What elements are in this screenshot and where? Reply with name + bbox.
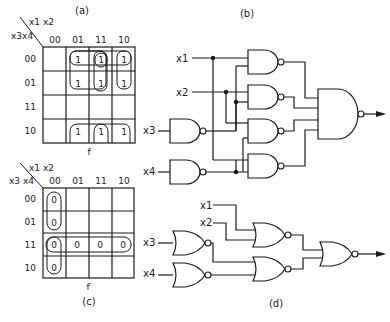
kmap-col-var: x1 x2 bbox=[29, 163, 54, 173]
kmap-cell: 1 bbox=[121, 79, 127, 89]
kmap-cell: 0 bbox=[97, 240, 103, 250]
panel-label-c: (c) bbox=[82, 296, 95, 307]
function-label-f: f bbox=[87, 147, 91, 157]
input-x1: x1 bbox=[176, 53, 188, 64]
kmap-cell: 1 bbox=[98, 127, 104, 137]
nor-gate bbox=[253, 257, 291, 281]
input-x2: x2 bbox=[176, 87, 188, 98]
kmap-cell: 1 bbox=[98, 79, 104, 89]
col-header: 10 bbox=[118, 35, 130, 45]
col-header: 00 bbox=[49, 35, 61, 45]
col-header: 11 bbox=[95, 35, 106, 45]
input-x3: x3 bbox=[143, 125, 155, 136]
kmap-col-var: x1 x2 bbox=[29, 17, 54, 27]
row-header: 11 bbox=[25, 102, 36, 112]
kmap-row-var: x3x4 bbox=[11, 31, 33, 41]
col-header: 10 bbox=[118, 176, 130, 186]
kmap-f: (a) x1 x2 x3x4 00 01 11 10 00 01 11 10 1… bbox=[11, 5, 135, 157]
kmap-cell: 0 bbox=[74, 240, 80, 250]
kmap-f-prime: x1 x2 x3 x4 00 01 11 10 00 01 11 10 0 0 … bbox=[9, 163, 134, 307]
col-header: 01 bbox=[72, 176, 83, 186]
kmap-cell: 1 bbox=[98, 55, 104, 65]
input-x4: x4 bbox=[143, 268, 155, 279]
output-arrow-icon bbox=[376, 251, 386, 257]
nand-gate bbox=[170, 119, 206, 143]
row-header: 01 bbox=[25, 217, 36, 227]
row-header: 11 bbox=[25, 240, 36, 250]
function-label-f-prime: f′ bbox=[86, 282, 91, 292]
nand-gate bbox=[248, 50, 284, 74]
logic-figure: (a) x1 x2 x3x4 00 01 11 10 00 01 11 10 1… bbox=[0, 0, 390, 322]
col-header: 11 bbox=[95, 176, 106, 186]
kmap-row-var: x3 x4 bbox=[9, 176, 34, 186]
panel-label-d: (d) bbox=[269, 298, 283, 309]
output-nand-gate bbox=[318, 89, 358, 139]
kmap-cell: 0 bbox=[51, 240, 57, 250]
input-x2: x2 bbox=[200, 217, 212, 228]
nand-circuit: (b) x1 x2 x3 x4 bbox=[143, 8, 386, 184]
kmap-cell: 0 bbox=[120, 240, 126, 250]
nor-circuit: x1 x2 x3 x4 (d) bbox=[143, 200, 386, 309]
nand-gate bbox=[248, 154, 284, 178]
panel-label-a: (a) bbox=[75, 5, 89, 16]
nor-gate bbox=[253, 223, 291, 247]
kmap-cell: 1 bbox=[121, 127, 127, 137]
nor-gate bbox=[173, 263, 211, 287]
row-header: 01 bbox=[25, 78, 36, 88]
output-nor-gate bbox=[320, 242, 358, 266]
kmap-cell: 1 bbox=[75, 127, 81, 137]
nand-gate bbox=[248, 85, 284, 109]
input-x4: x4 bbox=[143, 166, 155, 177]
kmap-cell: 1 bbox=[121, 55, 127, 65]
row-header: 00 bbox=[25, 54, 37, 64]
panel-label-b: (b) bbox=[240, 8, 254, 19]
row-header: 10 bbox=[25, 126, 37, 136]
kmap-cell: 1 bbox=[75, 79, 81, 89]
nor-gate bbox=[173, 231, 211, 255]
row-header: 00 bbox=[25, 194, 37, 204]
input-x3: x3 bbox=[143, 237, 155, 248]
nand-gate bbox=[248, 119, 284, 143]
output-arrow-icon bbox=[376, 111, 386, 117]
input-x1: x1 bbox=[200, 200, 212, 211]
kmap-cell: 0 bbox=[51, 218, 57, 228]
col-header: 01 bbox=[72, 35, 83, 45]
row-header: 10 bbox=[25, 263, 37, 273]
kmap-cell: 0 bbox=[51, 195, 57, 205]
nand-gate bbox=[170, 160, 206, 184]
kmap-cell: 1 bbox=[75, 55, 81, 65]
kmap-cell: 0 bbox=[51, 263, 57, 273]
col-header: 00 bbox=[49, 176, 61, 186]
